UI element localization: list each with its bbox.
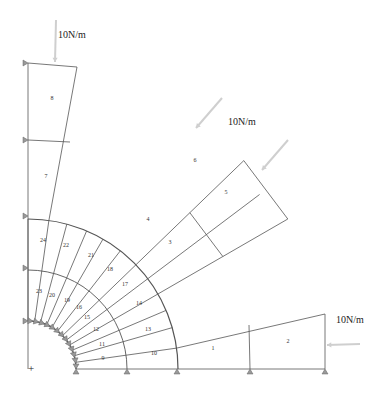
roller-support-icon bbox=[23, 318, 28, 324]
element-label: 8 bbox=[51, 95, 54, 101]
roller-support-icon bbox=[23, 213, 28, 219]
element-label: 23 bbox=[36, 288, 42, 294]
element-label: 21 bbox=[88, 252, 94, 258]
roller-support-icon bbox=[23, 137, 28, 143]
support-icon bbox=[72, 358, 79, 364]
pin-support-icon bbox=[322, 369, 328, 374]
right-arm-top bbox=[177, 314, 325, 348]
element-label: 6 bbox=[194, 157, 197, 163]
load-arrows bbox=[53, 20, 360, 347]
element-label: 2 bbox=[287, 338, 290, 344]
support-icon bbox=[73, 364, 79, 369]
element-label: 5 bbox=[225, 189, 228, 195]
element-label: 12 bbox=[93, 326, 99, 332]
radial-edge bbox=[74, 328, 172, 356]
element-label: 3 bbox=[169, 239, 172, 245]
support-icon bbox=[33, 318, 39, 325]
mesh-lines bbox=[28, 63, 325, 369]
pin-support-icon bbox=[247, 369, 253, 374]
roller-support-icon bbox=[23, 265, 28, 271]
element-label: 17 bbox=[122, 281, 128, 287]
element-label: 19 bbox=[64, 297, 70, 303]
element-label: 11 bbox=[99, 341, 105, 347]
load-arrow-icon bbox=[53, 58, 58, 62]
element-label: 10 bbox=[151, 350, 157, 356]
support-symbols bbox=[23, 60, 328, 374]
origin-marker: + bbox=[28, 362, 34, 374]
radial-edge bbox=[63, 265, 136, 336]
vert-arm-top bbox=[28, 63, 77, 67]
element-label: 7 bbox=[45, 173, 48, 179]
load-arrow-top bbox=[55, 20, 56, 62]
element-label: 9 bbox=[102, 355, 105, 361]
origin-marker-icon: + bbox=[28, 362, 34, 374]
radial-edge bbox=[76, 348, 177, 362]
vert-arm-right bbox=[49, 67, 77, 220]
radial-edge bbox=[35, 220, 49, 321]
element-label: 1 bbox=[212, 345, 215, 351]
middle-arc bbox=[28, 270, 127, 369]
diag-arm-mid bbox=[190, 213, 223, 257]
load-label: 10N/m bbox=[336, 314, 364, 325]
fem-mesh-diagram: 123456789101112131415161718192021222324 … bbox=[0, 0, 384, 396]
pin-support-icon bbox=[124, 369, 130, 374]
element-label: 14 bbox=[136, 300, 142, 306]
element-label: 22 bbox=[63, 242, 69, 248]
load-arrow-right bbox=[327, 344, 360, 345]
load-label: 10N/m bbox=[228, 116, 256, 127]
diag-arm-end bbox=[244, 161, 288, 219]
element-label: 15 bbox=[84, 314, 90, 320]
load-arrow-diag-2 bbox=[262, 140, 288, 170]
load-label: 10N/m bbox=[58, 29, 86, 40]
element-label: 13 bbox=[145, 326, 151, 332]
element-label: 18 bbox=[107, 266, 113, 272]
element-label: 24 bbox=[40, 237, 46, 243]
support-icon bbox=[28, 318, 34, 324]
element-label: 20 bbox=[49, 292, 55, 298]
load-arrow-icon bbox=[327, 342, 331, 347]
pin-support-icon bbox=[73, 369, 79, 374]
element-labels: 123456789101112131415161718192021222324 bbox=[36, 95, 290, 361]
load-arrow-diag-1 bbox=[196, 98, 222, 128]
element-label: 16 bbox=[76, 304, 82, 310]
roller-support-icon bbox=[23, 60, 28, 66]
element-label: 4 bbox=[147, 216, 150, 222]
pin-support-icon bbox=[174, 369, 180, 374]
